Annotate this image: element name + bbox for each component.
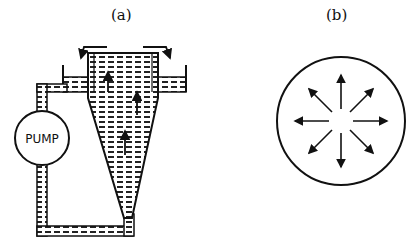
cyclone-vessel [88, 53, 158, 218]
pump: PUMP [15, 111, 69, 165]
radial-flow-diagram [277, 57, 405, 185]
diagram: PUMP [0, 0, 419, 245]
pump-label: PUMP [25, 132, 59, 146]
